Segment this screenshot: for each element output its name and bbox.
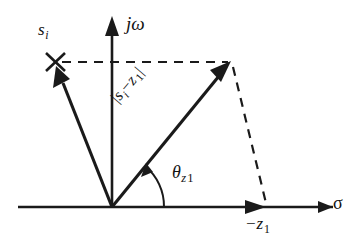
- real-axis-label: σ: [333, 194, 343, 212]
- zero-label-negz1-subscript: 1: [263, 222, 270, 236]
- dashed-slanted-construction-line: [233, 67, 266, 203]
- pole-label-si-subscript: i: [45, 28, 49, 42]
- pole-label-si-base: s: [38, 20, 45, 39]
- zero-label-negz1-base: −z: [245, 214, 263, 233]
- vector-to-pole-si: [63, 83, 112, 207]
- angle-label-theta-z1: θz1: [172, 163, 194, 185]
- imaginary-axis-arrowhead: [105, 16, 119, 36]
- angle-label-theta-sub-num: 1: [186, 171, 193, 185]
- vector-to-zero-negz1-arrowhead: [245, 200, 266, 214]
- s-plane-vector-diagram: si jω σ −z1 θz1 |si−z1|: [0, 0, 357, 250]
- zero-label-negz1: −z1: [245, 215, 270, 235]
- imaginary-axis-label: jω: [126, 14, 145, 33]
- diagram-canvas: [0, 0, 357, 250]
- vector-si-minus-z1-arrowhead: [210, 61, 231, 82]
- pole-label-si: si: [38, 21, 48, 42]
- angle-label-theta-base: θ: [172, 162, 181, 182]
- real-axis-arrowhead: [318, 201, 333, 213]
